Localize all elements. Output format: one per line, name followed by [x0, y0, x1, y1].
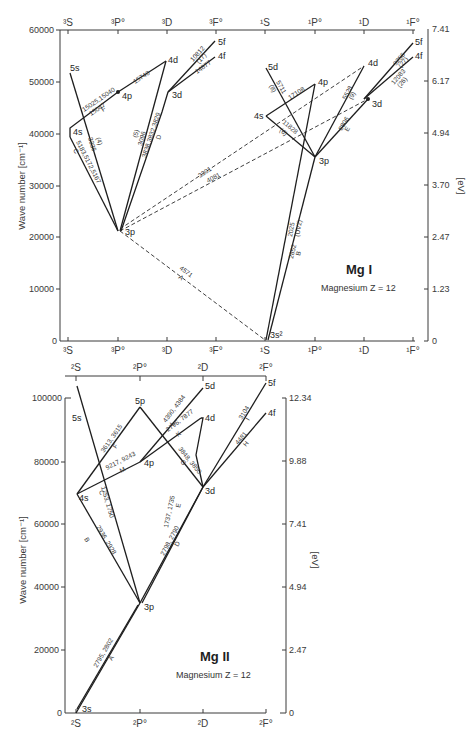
svg-text:³D: ³D [162, 17, 173, 28]
svg-text:²D: ²D [198, 718, 209, 729]
svg-text:F: F [111, 442, 119, 449]
svg-text:A: A [107, 654, 116, 662]
svg-text:¹D: ¹D [359, 17, 370, 28]
ev-tick: 12.34 [289, 393, 312, 403]
svg-text:4s: 4s [73, 127, 83, 137]
mg1-title: Mg I [346, 262, 372, 277]
svg-text:5s: 5s [70, 63, 80, 73]
svg-text:¹D: ¹D [359, 345, 370, 356]
y-tick: 40000 [34, 582, 59, 592]
svg-text:5f: 5f [218, 37, 226, 47]
svg-text:B: B [294, 250, 302, 256]
ev-tick: 4.94 [432, 128, 450, 138]
ev-tick: 2.47 [432, 232, 450, 242]
svg-text:²F°: ²F° [259, 718, 272, 729]
svg-text:4p: 4p [318, 77, 328, 87]
svg-text:³F°: ³F° [209, 345, 222, 356]
svg-text:1737, 1735: 1737, 1735 [162, 495, 176, 529]
svg-text:4s: 4s [79, 493, 89, 503]
svg-text:¹S: ¹S [260, 17, 270, 28]
svg-text:³D: ³D [162, 345, 173, 356]
mg1-level-labels: 5s 4s 4p 3p 4d 3d 5f 4f 5d 4s 4p 3p 4d 3… [70, 37, 423, 340]
svg-text:5f: 5f [268, 378, 276, 388]
mg2-transitions [76, 383, 266, 713]
svg-text:3p: 3p [319, 156, 329, 166]
svg-text:³F°: ³F° [209, 17, 222, 28]
svg-text:²S: ²S [71, 718, 81, 729]
svg-text:¹F°: ¹F° [406, 17, 419, 28]
y-tick: 40000 [29, 129, 54, 139]
y-tick: 30000 [29, 181, 54, 191]
ev-tick: 0 [289, 708, 294, 718]
mg1-columns-top: ³S ³P° ³D ³F° ¹S ¹P° ¹D ¹F° [63, 17, 420, 34]
svg-text:3p: 3p [125, 227, 135, 237]
svg-text:²F°: ²F° [259, 362, 272, 373]
svg-text:E: E [174, 502, 182, 508]
svg-text:¹F°: ¹F° [406, 345, 419, 356]
svg-text:5s: 5s [72, 413, 82, 423]
svg-text:5p: 5p [135, 396, 145, 406]
y-tick: 100000 [32, 393, 62, 403]
mg1-subtitle: Magnesium Z = 12 [321, 283, 396, 293]
svg-text:3d: 3d [205, 486, 215, 496]
ev-tick: 7.41 [432, 24, 450, 34]
mg2-title: Mg II [200, 649, 230, 664]
svg-text:4d: 4d [168, 55, 178, 65]
svg-text:4s: 4s [254, 111, 264, 121]
svg-text:3s²: 3s² [270, 330, 283, 340]
svg-text:15740: 15740 [132, 69, 151, 85]
svg-text:3p: 3p [144, 602, 154, 612]
mg1-singlet-transitions [266, 43, 413, 340]
svg-text:D: D [154, 133, 162, 140]
svg-text:A: A [177, 273, 185, 282]
y-tick: 60000 [34, 519, 59, 529]
svg-text:3613, 3615: 3613, 3615 [99, 423, 124, 454]
mg2-columns-bottom: ²S ²P° ²D ²F° [71, 709, 273, 729]
svg-text:E: E [343, 125, 352, 133]
ev-tick: 6.17 [432, 76, 450, 86]
ev-tick: 3.70 [432, 180, 450, 190]
svg-text:4d: 4d [368, 58, 378, 68]
svg-text:I: I [244, 416, 251, 421]
ev-tick: 4.94 [289, 582, 307, 592]
level-dot [116, 90, 120, 94]
svg-text:4p: 4p [144, 458, 154, 468]
mg2-diagram: 100000 80000 60000 40000 20000 0 Wave nu… [17, 362, 321, 729]
y-tick: 0 [52, 336, 57, 346]
svg-text:²P°: ²P° [133, 718, 147, 729]
mg1-ev-axis-label: [eV] [456, 178, 467, 195]
ev-tick: 1.23 [432, 284, 450, 294]
svg-text:5f: 5f [415, 37, 423, 47]
mg1-columns-bottom: ³S ³P° ³D ³F° ¹S ¹P° ¹D ¹F° [63, 337, 420, 356]
y-tick: 80000 [34, 457, 59, 467]
svg-text:²D: ²D [198, 362, 209, 373]
y-tick: 50000 [29, 77, 54, 87]
y-tick: 20000 [29, 232, 54, 242]
svg-text:3d: 3d [172, 90, 182, 100]
svg-text:¹P°: ¹P° [308, 345, 322, 356]
ev-tick: 9.88 [289, 456, 307, 466]
svg-text:³S: ³S [63, 345, 73, 356]
svg-text:¹P°: ¹P° [308, 17, 322, 28]
mg2-y-axis-label: Wave number [cm⁻¹] [17, 516, 28, 604]
svg-text:D: D [173, 540, 182, 548]
mg2-subtitle: Magnesium Z = 12 [176, 670, 251, 680]
svg-text:²S: ²S [71, 362, 81, 373]
svg-text:³P°: ³P° [111, 17, 125, 28]
mg2-columns-top: ²S ²P° ²D ²F° [71, 362, 273, 381]
svg-text:3d: 3d [372, 99, 382, 109]
y-tick: 20000 [34, 645, 59, 655]
grotrian-diagrams: 60000 50000 40000 30000 20000 10000 0 Wa… [0, 0, 473, 739]
svg-text:2936, 2928: 2936, 2928 [95, 524, 118, 556]
y-tick: 10000 [29, 284, 54, 294]
svg-text:¹S: ¹S [260, 345, 270, 356]
mg1-diagram: 60000 50000 40000 30000 20000 10000 0 Wa… [16, 17, 467, 356]
svg-text:5183,5172,5167: 5183,5172,5167 [75, 139, 103, 184]
y-tick: 60000 [29, 25, 54, 35]
mg1-y-ticks: 60000 50000 40000 30000 20000 10000 0 [29, 25, 60, 346]
svg-text:4f: 4f [218, 51, 226, 61]
svg-text:³S: ³S [63, 17, 73, 28]
mg1-wavelength-labels: 15025,15040 15047 F 15740 5183,5172,5167… [72, 44, 410, 282]
mg2-ev-ticks: 12.34 9.88 7.41 4.94 2.47 0 [280, 393, 312, 718]
svg-text:³P°: ³P° [111, 345, 125, 356]
